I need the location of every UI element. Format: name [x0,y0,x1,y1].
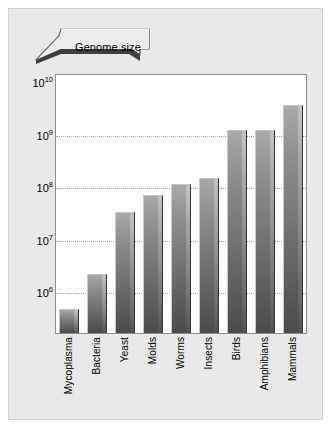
x-axis: Mycoplasma Bacteria Yeast Molds Worms In… [55,337,307,417]
x-tick-amphibians: Amphibians [259,337,270,390]
callout-label: Genome size [75,41,141,53]
y-tick-exponent: 10 [45,75,53,84]
x-tick-mycoplasma: Mycoplasma [63,337,74,394]
x-tick-insects: Insects [203,337,214,369]
bar-worms [171,184,191,333]
bar-bacteria [87,274,107,333]
genome-size-callout: Genome size [31,23,153,67]
y-tick-1e10: 1010 [32,75,53,89]
bar-series [56,75,306,333]
x-tick-molds: Molds [147,337,158,364]
y-tick-1e9: 109 [37,128,53,142]
x-tick-bacteria: Bacteria [91,337,102,375]
y-tick-1e8: 108 [37,180,53,194]
figure-panel: Genome size 1010 109 108 107 106 Mycopla… [8,8,323,420]
x-tick-birds: Birds [231,337,242,360]
bar-mammals [283,105,303,333]
y-tick-1e7: 107 [37,233,53,247]
x-tick-yeast: Yeast [119,337,130,362]
y-tick-exponent: 7 [49,233,53,242]
y-tick-exponent: 6 [49,285,53,294]
bar-mycoplasma [59,309,79,333]
bar-molds [143,195,163,333]
x-tick-mammals: Mammals [287,337,298,381]
x-tick-worms: Worms [175,337,186,369]
bar-amphibians [255,130,275,334]
y-tick-1e6: 106 [37,285,53,299]
bar-yeast [115,212,135,333]
y-tick-exponent: 8 [49,180,53,189]
y-tick-exponent: 9 [49,128,53,137]
y-axis: 1010 109 108 107 106 [17,74,55,334]
plot-area [55,74,307,334]
bar-insects [199,178,219,333]
bar-birds [227,130,247,334]
